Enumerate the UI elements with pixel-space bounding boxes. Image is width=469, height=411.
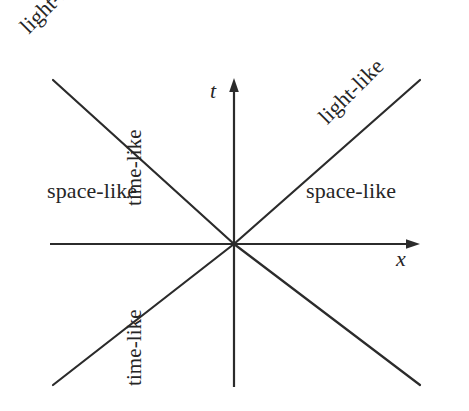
light-cone-figure: t x light-like light-like space-like spa… [0,0,469,411]
label-time-like-lower: time-like [124,309,248,386]
lower-right-null-ray [234,244,420,385]
x-axis-arrowhead [406,239,420,249]
x-axis-label: x [396,248,406,270]
label-time-like-upper: time-like [124,129,248,206]
t-axis-label: t [210,80,216,102]
label-space-like-right: space-like [306,180,396,202]
t-axis-arrowhead [229,78,239,92]
